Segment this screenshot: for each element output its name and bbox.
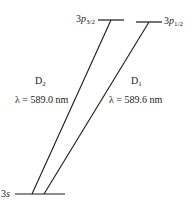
transition-d1-line: [44, 22, 149, 194]
transition-d1-name: D1: [131, 76, 142, 88]
level-3s-label: 3s: [1, 189, 10, 199]
transition-d2-name: D2: [35, 76, 46, 88]
level-3p32-label: 3p3/2: [76, 14, 95, 26]
transition-d2-wavelength: λ = 589.0 nm: [15, 95, 68, 105]
transition-d2-line: [32, 20, 111, 194]
transition-d1-wavelength: λ = 589.6 nm: [109, 95, 162, 105]
level-3p12-label: 3p1/2: [164, 16, 183, 28]
